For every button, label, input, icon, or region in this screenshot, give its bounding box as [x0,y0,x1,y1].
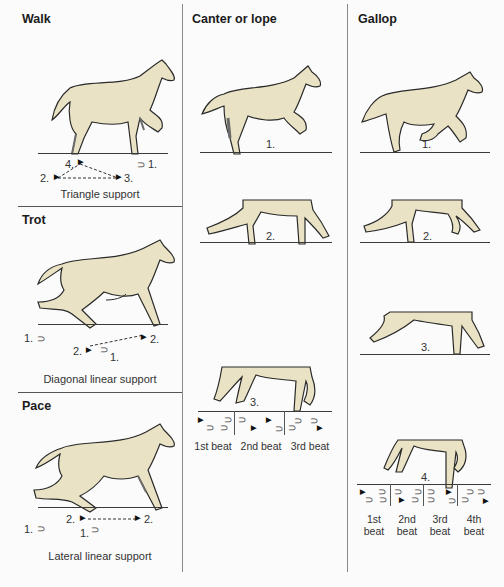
horse-gallop-phase-4 [384,438,494,490]
gallop-beat-1-ordinal: 1st [357,513,391,525]
gallop-beat-1: 1st beat [357,513,391,537]
hoof-open-icon: ⊃ [275,423,283,434]
hoof-solid-icon: ▶ [251,424,256,432]
hoof-solid-icon: ▶ [116,173,121,181]
gallop-phase-label-1: 1. [422,138,431,150]
horse-canter-phase-1 [200,64,330,156]
walk-label-4: 4. [65,158,74,170]
section-title-walk: Walk [22,12,51,26]
walk-ground-line [38,153,168,154]
gallop-ground-line-3 [360,354,490,355]
hoof-open-icon: ⊃ [427,494,435,505]
gallop-phase-label-4: 4. [421,471,430,483]
trot-ground-line [38,324,168,325]
hoof-solid-icon: ▶ [483,497,488,505]
hoof-open-icon: ⊃ [238,414,246,425]
column-divider-right [347,4,348,572]
gallop-beat-divider-1 [390,484,391,506]
gallop-beat-3-word: beat [423,525,457,537]
canter-ground-line-3 [198,411,332,412]
section-title-canter: Canter or lope [192,12,277,26]
trot-label-2-right: 2. [150,333,159,345]
canter-phase-label-1: 1. [266,138,275,150]
gallop-beat-2-ordinal: 2nd [390,513,424,525]
hoof-solid-icon: ▶ [198,416,203,424]
gallop-beat-4: 4th beat [457,513,491,537]
hoof-open-icon: ⊃ [206,422,214,433]
hoof-open-icon: ⊃ [448,495,456,506]
gallop-beat-1-word: beat [357,525,391,537]
trot-footfall-line [88,330,148,350]
walk-label-1: 1. [148,158,157,170]
hoof-open-icon: ⊃ [91,524,99,535]
walk-label-2: 2. [40,172,49,184]
gallop-ground-line-4 [357,484,491,485]
gallop-beat-2: 2nd beat [390,513,424,537]
hoof-open-icon: ⊃ [294,415,302,426]
section-divider-walk-trot [18,206,182,207]
hoof-solid-icon: ▶ [54,173,59,181]
column-divider-left [182,4,183,572]
pace-ground-line [38,507,168,508]
section-title-trot: Trot [22,213,46,227]
canter-beat-divider-1 [234,411,235,435]
section-title-pace: Pace [22,399,51,413]
hoof-solid-icon: ▶ [266,416,271,424]
hoof-solid-icon: ▶ [78,158,83,166]
horse-trot-illustration [30,238,180,330]
hoof-solid-icon: ▶ [135,514,140,522]
gallop-beat-4-ordinal: 4th [457,513,491,525]
canter-ground-line-1 [200,152,332,153]
walk-label-3: 3. [124,172,133,184]
gallop-beat-divider-3 [457,484,458,506]
hoof-open-icon: ⊃ [477,486,485,497]
walk-caption: Triangle support [30,188,170,200]
hoof-solid-icon: ▶ [141,333,146,341]
hoof-open-icon: ⊃ [220,422,228,433]
hoof-open-icon: ⊃ [100,344,108,355]
canter-beat-divider-2 [284,411,285,435]
hoof-open-icon: ⊃ [411,494,419,505]
horse-walk-illustration [40,58,180,158]
hoof-solid-icon: ▶ [80,514,85,522]
gallop-ground-line-1 [360,152,490,153]
horse-pace-illustration [28,422,178,514]
hoof-open-icon: ⊃ [379,494,387,505]
hoof-open-icon: ⊃ [37,333,45,344]
hoof-solid-icon: ▶ [86,346,91,354]
gallop-phase-label-3: 3. [421,341,430,353]
gallop-beat-4-word: beat [457,525,491,537]
pace-label-2-right: 2. [144,513,153,525]
canter-phase-label-3: 3. [250,396,259,408]
trot-label-2-bottom: 2. [73,345,82,357]
gallop-beat-divider-2 [423,484,424,506]
pace-label-2-left: 2. [66,513,75,525]
gallop-beat-2-word: beat [390,525,424,537]
section-title-gallop: Gallop [358,12,397,26]
canter-ground-line-2 [200,242,332,243]
canter-phase-label-2: 2. [266,230,275,242]
pace-label-1-bottom: 1. [80,527,89,539]
pace-caption: Lateral linear support [20,550,180,562]
pace-label-1-left: 1. [24,523,33,535]
section-divider-trot-pace [18,392,182,393]
trot-label-1-left: 1. [24,332,33,344]
canter-beat-2: 2nd beat [236,440,286,452]
hoof-open-icon: ⊃ [37,523,45,534]
trot-caption: Diagonal linear support [20,373,180,385]
gallop-ground-line-2 [360,242,490,243]
hoof-open-icon: ⊃ [365,494,373,505]
canter-beat-3: 3rd beat [285,440,335,452]
horse-canter-phase-3 [212,365,327,413]
gallop-beat-3: 3rd beat [423,513,457,537]
hoof-solid-icon: ▶ [399,496,404,504]
hoof-solid-icon: ▶ [317,424,322,432]
canter-beat-1: 1st beat [190,440,236,452]
hoof-open-icon: ⊃ [461,494,469,505]
trot-label-1-bottom: 1. [110,351,119,363]
gallop-phase-label-2: 2. [423,230,432,242]
gallop-beat-3-ordinal: 3rd [423,513,457,525]
hoof-open-icon: ⊃ [137,159,145,170]
